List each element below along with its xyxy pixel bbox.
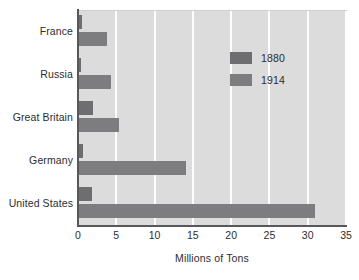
bar-group bbox=[78, 139, 346, 182]
category-label: France bbox=[0, 25, 73, 37]
category-label: United States bbox=[0, 197, 73, 209]
bar-group bbox=[78, 96, 346, 139]
bar bbox=[78, 118, 119, 132]
category-label: Russia bbox=[0, 68, 73, 80]
x-tick-label: 15 bbox=[187, 229, 199, 241]
legend-swatch-icon bbox=[230, 52, 252, 64]
chart-screenshot: FranceRussiaGreat BritainGermanyUnited S… bbox=[0, 0, 359, 280]
category-label: Great Britain bbox=[0, 111, 73, 123]
y-axis-line bbox=[77, 9, 79, 226]
x-tick-label: 5 bbox=[113, 229, 119, 241]
bars-layer bbox=[78, 10, 346, 225]
bar bbox=[78, 144, 83, 158]
x-tick-label: 0 bbox=[75, 229, 81, 241]
x-tick-label: 30 bbox=[302, 229, 314, 241]
x-tick-label: 20 bbox=[225, 229, 237, 241]
x-tick-label: 35 bbox=[340, 229, 352, 241]
category-axis-labels: FranceRussiaGreat BritainGermanyUnited S… bbox=[0, 10, 73, 225]
bar-group bbox=[78, 182, 346, 225]
x-tick-label: 25 bbox=[264, 229, 276, 241]
bar bbox=[78, 187, 92, 201]
legend-item: 1880 bbox=[230, 50, 285, 66]
bar bbox=[78, 204, 315, 218]
x-axis-title: Millions of Tons bbox=[78, 252, 346, 264]
chart-legend: 18801914 bbox=[230, 50, 285, 94]
x-tick-label: 10 bbox=[149, 229, 161, 241]
bar-group bbox=[78, 10, 346, 53]
legend-swatch-icon bbox=[230, 74, 252, 86]
legend-item: 1914 bbox=[230, 72, 285, 88]
legend-label: 1880 bbox=[261, 52, 285, 64]
bar bbox=[78, 101, 93, 115]
legend-label: 1914 bbox=[261, 74, 285, 86]
bar bbox=[78, 161, 186, 175]
bar-group bbox=[78, 53, 346, 96]
bar bbox=[78, 75, 111, 89]
category-label: Germany bbox=[0, 154, 73, 166]
bar bbox=[78, 32, 107, 46]
x-axis-line bbox=[77, 225, 347, 227]
x-axis-tick-labels: 05101520253035 bbox=[78, 229, 346, 245]
